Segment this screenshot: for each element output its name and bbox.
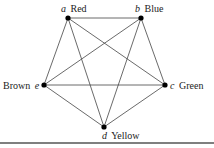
edge-b-c [141,18,165,85]
label-b-var: b [135,3,140,14]
label-e-var: e [35,80,40,91]
vertex-e [41,82,46,87]
graph-vertices [41,15,167,129]
vertex-c [162,82,167,87]
label-a-name: Red [71,3,87,14]
edge-a-e [44,18,68,85]
label-d-name: Yellow [111,130,140,141]
label-e: Brown e [3,80,40,91]
edge-b-e [44,18,141,85]
label-a: a Red [61,3,87,14]
edge-d-e [44,85,104,127]
graph-edges [44,18,165,127]
label-b-name: Blue [145,3,164,14]
label-c-name: Green [179,80,203,91]
label-b: b Blue [135,3,164,14]
label-d-var: d [102,130,108,141]
vertex-a [65,15,70,20]
edge-c-d [104,85,165,127]
label-e-name: Brown [3,80,30,91]
edge-a-d [68,18,104,127]
label-c-var: c [170,80,175,91]
vertex-b [138,15,143,20]
edge-b-d [104,18,141,127]
vertex-d [101,124,106,129]
edge-a-c [68,18,165,85]
label-d: d Yellow [102,130,140,141]
graph-diagram: a Red b Blue c Green d Yellow Brown e [0,0,214,148]
label-c: c Green [170,80,203,91]
label-a-var: a [61,3,66,14]
